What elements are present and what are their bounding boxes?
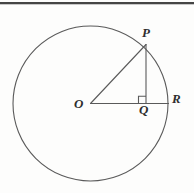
vertex-label-R: R	[172, 92, 181, 105]
vertex-label-Q: Q	[139, 103, 148, 116]
figure-canvas	[0, 0, 194, 193]
vertex-label-O: O	[74, 97, 83, 110]
vertex-label-P: P	[142, 26, 150, 39]
geometry-figure: O P Q R	[0, 0, 194, 193]
segment-OP-radius	[91, 45, 147, 104]
